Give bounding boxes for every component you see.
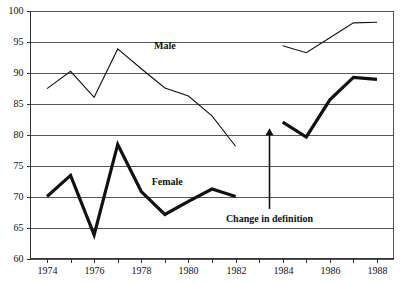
line-chart: 6065707580859095100 19741976197819801982… — [0, 0, 410, 284]
series-labels: MaleFemale — [152, 40, 184, 187]
annotation-arrow-head-icon — [266, 128, 274, 135]
x-tick-label-1986: 1986 — [321, 265, 341, 276]
series-line-male-segment-2 — [283, 22, 377, 52]
y-tick-label-70: 70 — [14, 191, 24, 202]
series-label-female: Female — [152, 176, 184, 187]
y-tick-label-60: 60 — [14, 253, 24, 264]
y-tick-label-80: 80 — [14, 129, 24, 140]
x-tick-label-1974: 1974 — [38, 265, 58, 276]
chart-container: 6065707580859095100 19741976197819801982… — [0, 0, 410, 284]
series-label-male: Male — [154, 40, 176, 51]
x-tick-label-1976: 1976 — [85, 265, 105, 276]
y-tick-label-100: 100 — [9, 5, 24, 16]
annotation-text-change-in-definition: Change in definition — [226, 213, 314, 224]
y-tick-label-95: 95 — [14, 36, 24, 47]
series-line-male-segment-1 — [47, 49, 236, 146]
x-tick-label-1984: 1984 — [274, 265, 294, 276]
chart-annotations: Change in definition — [226, 128, 314, 224]
gridlines — [31, 12, 394, 260]
x-tick-label-1988: 1988 — [368, 265, 388, 276]
y-tick-label-65: 65 — [14, 222, 24, 233]
y-tick-label-75: 75 — [14, 160, 24, 171]
y-tick-label-85: 85 — [14, 98, 24, 109]
data-series — [47, 22, 377, 235]
y-tick-label-90: 90 — [14, 67, 24, 78]
series-line-female-segment-1 — [47, 144, 236, 235]
y-axis: 6065707580859095100 — [9, 5, 31, 264]
series-line-female-segment-2 — [283, 77, 377, 137]
x-tick-label-1980: 1980 — [179, 265, 199, 276]
x-axis: 19741976197819801982198419861988 — [31, 259, 394, 276]
x-tick-label-1982: 1982 — [227, 265, 247, 276]
x-tick-label-1978: 1978 — [132, 265, 152, 276]
